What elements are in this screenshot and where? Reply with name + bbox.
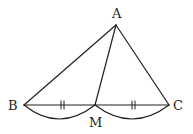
segment-am [95,25,116,105]
label-c: C [173,98,183,113]
segment-ab [24,25,116,105]
arc-bm [24,105,95,119]
label-a: A [111,6,122,21]
triangle-diagram: A B C M [0,0,193,134]
label-m: M [89,115,102,130]
geometry-figure: A B C M [0,0,193,134]
label-b: B [8,98,18,113]
segment-ac [116,25,169,105]
